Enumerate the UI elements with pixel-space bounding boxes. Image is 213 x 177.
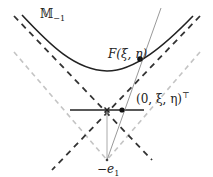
projection-ray — [107, 8, 161, 160]
plane-point-label: (0, ξ, η)⊤ — [136, 92, 190, 105]
F-label: F(ξ, η) — [108, 48, 147, 60]
diagram-canvas — [0, 0, 213, 177]
neg-e1-label: −e1 — [97, 163, 119, 177]
plane-point — [119, 107, 124, 112]
manifold-label: 𝕄−1 — [40, 8, 65, 23]
hyperboloid-diagram: 𝕄−1 F(ξ, η) (0, ξ, η)⊤ −e1 — [0, 0, 213, 177]
hyperbola-curve — [22, 15, 193, 71]
neg-e1-point — [106, 159, 109, 162]
